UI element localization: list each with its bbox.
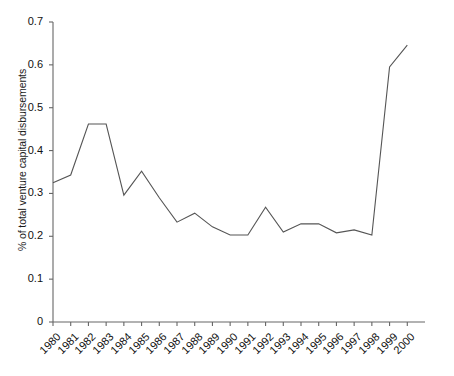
- line-chart: % of total venture capital disbursements…: [0, 0, 454, 376]
- x-axis-tick-labels: 1980198119821983198419851986198719881989…: [0, 0, 454, 376]
